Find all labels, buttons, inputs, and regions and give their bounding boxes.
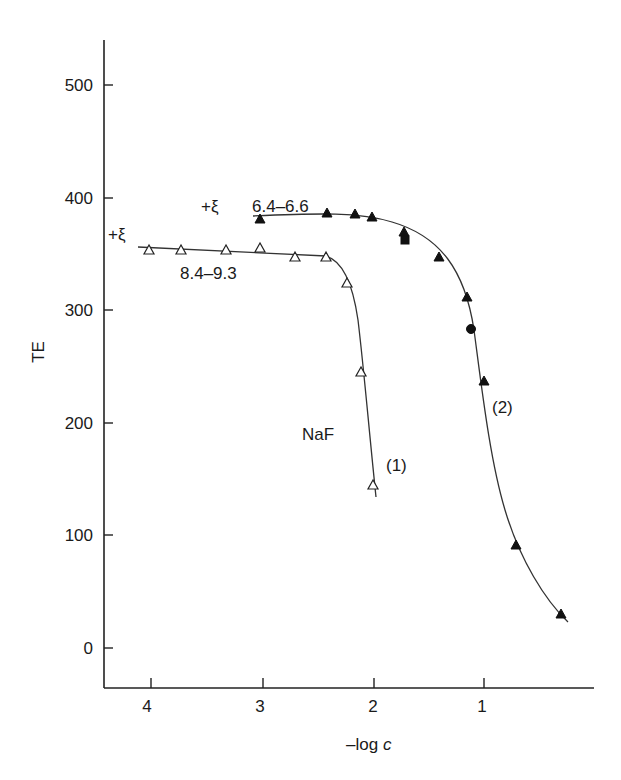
open-triangle-marker [368, 480, 378, 489]
open-triangle-marker [221, 245, 231, 254]
y-tick-label: 100 [65, 526, 93, 545]
curve-2-fit [253, 214, 568, 622]
filled-triangle-marker [399, 227, 409, 236]
open-triangle-marker [342, 278, 352, 287]
y-tick-label: 0 [84, 639, 93, 658]
range-annotation-1: 8.4–9.3 [180, 264, 237, 283]
curve-2-label: (2) [492, 398, 513, 417]
y-axis-label: TE [29, 341, 48, 363]
te-vs-log-c-chart: 500 400 300 200 100 0 4 3 2 1 TE –log c [0, 0, 621, 780]
filled-square-marker [401, 236, 409, 244]
open-triangle-marker [290, 252, 300, 261]
curve-1-label: (1) [386, 456, 407, 475]
filled-triangle-marker [322, 208, 332, 217]
open-triangle-marker [356, 367, 366, 376]
x-ticks: 4 3 2 1 [142, 678, 486, 716]
y-tick-label: 500 [65, 76, 93, 95]
open-triangle-marker [144, 245, 154, 254]
x-axis-label: –log c [346, 735, 392, 754]
y-ticks: 500 400 300 200 100 0 [65, 76, 113, 658]
naf-label: NaF [302, 425, 334, 444]
filled-triangle-marker [511, 540, 521, 549]
open-triangle-marker [321, 252, 331, 261]
series-2-markers [255, 208, 566, 618]
y-tick-label: 300 [65, 301, 93, 320]
open-triangle-marker [255, 243, 265, 252]
filled-circle-marker [467, 325, 476, 334]
y-tick-label: 200 [65, 414, 93, 433]
curve-1-fit [138, 247, 376, 497]
y-tick-label: 400 [65, 189, 93, 208]
x-tick-label: 1 [477, 697, 486, 716]
axes [104, 40, 594, 688]
x-tick-label: 3 [255, 697, 264, 716]
xi-annotation-1: +ξ [108, 225, 126, 244]
x-tick-label: 4 [142, 697, 151, 716]
xi-annotation-2: +ξ [201, 197, 219, 216]
filled-triangle-marker [462, 292, 472, 301]
x-tick-label: 2 [368, 697, 377, 716]
filled-triangle-marker [350, 209, 360, 218]
range-annotation-2: 6.4–6.6 [252, 197, 309, 216]
